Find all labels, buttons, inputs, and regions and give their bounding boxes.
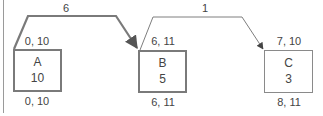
node-c: 7, 10 C 3 8, 11: [265, 35, 313, 108]
node-c-top-label: 7, 10: [277, 35, 301, 47]
node-a-duration: 10: [31, 71, 45, 85]
node-b-label: B: [158, 56, 166, 70]
node-a-label: A: [33, 55, 41, 69]
node-b: 6, 11 B 5 6, 11: [139, 35, 186, 108]
node-b-top-label: 6, 11: [151, 35, 175, 47]
node-a-bottom-label: 0, 10: [25, 95, 49, 107]
node-b-duration: 5: [159, 72, 166, 86]
node-a: 0, 10 A 10 0, 10: [14, 35, 61, 107]
edge-a-to-b-label: 6: [63, 2, 69, 14]
node-c-bottom-label: 8, 11: [277, 96, 301, 108]
edge-b-to-c-label: 1: [202, 2, 208, 14]
node-c-duration: 3: [285, 72, 292, 86]
network-diagram: 6 1 0, 10 A 10 0, 10 6, 11 B 5 6, 11 7, …: [0, 0, 323, 116]
node-c-label: C: [284, 56, 293, 70]
node-a-top-label: 0, 10: [25, 35, 49, 47]
node-b-bottom-label: 6, 11: [151, 96, 175, 108]
